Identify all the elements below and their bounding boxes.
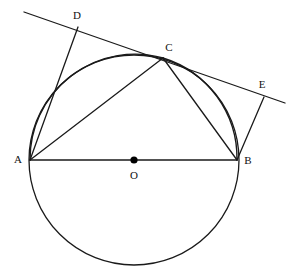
segment-BE (237, 97, 264, 160)
geometry-diagram-canvas: A B C D E O (0, 0, 298, 276)
segment-AC (30, 58, 163, 160)
point-label-C: C (165, 41, 172, 53)
geometry-figure: A B C D E O (0, 0, 298, 276)
point-label-E: E (259, 78, 266, 90)
point-label-A: A (14, 153, 22, 165)
tangent-line-DCE (24, 12, 285, 103)
segment-AD (30, 27, 78, 160)
point-label-O: O (130, 169, 138, 181)
point-label-B: B (244, 154, 251, 166)
point-label-D: D (73, 9, 81, 21)
center-point-O-dot (130, 156, 137, 163)
